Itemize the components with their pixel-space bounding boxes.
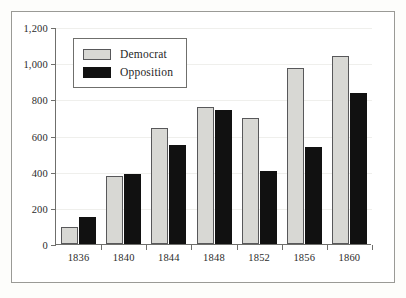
y-axis-tick: [51, 137, 56, 138]
bar-democrat-1852: [242, 118, 259, 244]
bar-opposition-1844: [169, 145, 186, 244]
legend-label-opposition: Opposition: [120, 66, 173, 78]
y-axis-tick: [51, 173, 56, 174]
bar-opposition-1840: [124, 174, 141, 244]
y-axis-tick: [51, 100, 56, 101]
bar-opposition-1860: [350, 93, 367, 244]
legend-label-democrat: Democrat: [120, 48, 167, 60]
x-axis-tick: [327, 245, 328, 250]
x-axis-tick-label: 1860: [339, 252, 361, 263]
x-axis-tick-label: 1844: [158, 252, 180, 263]
bar-opposition-1848: [215, 110, 232, 244]
chart-figure: 02004006008001,0001,200 1836184018441848…: [0, 0, 406, 298]
y-axis-tick: [51, 209, 56, 210]
bar-opposition-1852: [260, 171, 277, 244]
legend-swatch-opposition: [83, 67, 111, 78]
chart-legend: Democrat Opposition: [73, 38, 187, 88]
y-axis-tick-label: 1,200: [23, 23, 48, 34]
bar-democrat-1840: [106, 176, 123, 244]
legend-swatch-democrat: [83, 49, 111, 60]
bar-group: [242, 27, 277, 244]
x-axis-tick: [146, 245, 147, 250]
x-axis-tick-label: 1848: [203, 252, 225, 263]
x-axis-tick-label: 1840: [113, 252, 135, 263]
x-axis-tick-label: 1836: [68, 252, 90, 263]
bar-democrat-1860: [332, 56, 349, 244]
y-axis-tick-label: 800: [32, 95, 48, 106]
y-axis-tick-label: 600: [32, 131, 48, 142]
bar-opposition-1836: [79, 217, 96, 244]
y-axis-tick: [51, 245, 56, 246]
x-axis-tick: [237, 245, 238, 250]
legend-item-democrat: Democrat: [83, 45, 173, 63]
y-axis-tick-label: 1,000: [23, 59, 48, 70]
x-axis-tick: [372, 245, 373, 250]
y-axis-tick-label: 400: [32, 167, 48, 178]
bar-democrat-1836: [61, 227, 78, 244]
bar-democrat-1844: [151, 128, 168, 244]
y-axis-tick-label: 200: [32, 203, 48, 214]
bar-opposition-1856: [305, 147, 322, 244]
y-axis-tick: [51, 64, 56, 65]
bar-group: [332, 27, 367, 244]
x-axis-tick: [191, 245, 192, 250]
x-axis-tick-label: 1856: [293, 252, 315, 263]
x-axis-tick-label: 1852: [248, 252, 270, 263]
bar-group: [197, 27, 232, 244]
x-axis-tick: [282, 245, 283, 250]
bar-group: [287, 27, 322, 244]
x-axis-tick: [101, 245, 102, 250]
y-axis-tick-label: 0: [43, 240, 48, 251]
y-axis-tick: [51, 28, 56, 29]
bar-democrat-1856: [287, 68, 304, 244]
legend-item-opposition: Opposition: [83, 63, 173, 81]
bar-democrat-1848: [197, 107, 214, 244]
